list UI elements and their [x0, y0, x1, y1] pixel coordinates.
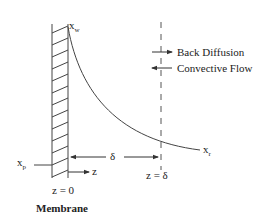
diagram-graphics — [0, 0, 274, 215]
label-membrane: Membrane — [36, 203, 88, 214]
diagram-canvas: xw xp xr z δ z = 0 z = δ Membrane Back D… — [0, 0, 274, 215]
label-xp: xp — [17, 157, 26, 170]
label-z-delta: z = δ — [146, 170, 168, 181]
label-xr: xr — [203, 144, 211, 157]
label-xw: xw — [69, 20, 80, 33]
legend-back-diffusion: Back Diffusion — [177, 47, 244, 58]
membrane-wall — [52, 24, 68, 178]
label-delta: δ — [110, 151, 115, 162]
legend-convective-flow: Convective Flow — [177, 63, 252, 74]
label-z-axis: z — [92, 166, 97, 177]
label-z-zero: z = 0 — [52, 185, 74, 196]
